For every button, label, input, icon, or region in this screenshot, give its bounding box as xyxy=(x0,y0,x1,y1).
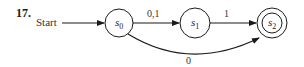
transition-s0-s2 xyxy=(128,34,259,54)
state-s2-accepting: s2 xyxy=(257,8,287,38)
start-label: Start xyxy=(36,16,57,28)
state-diagram: 17. Start s0 0,1 s1 1 s2 0 xyxy=(0,0,304,67)
transition-s0-s2-label: 0 xyxy=(186,55,191,66)
state-s2-label: s2 xyxy=(268,16,276,31)
state-s1: s1 xyxy=(180,8,210,38)
transition-s1-s2-label: 1 xyxy=(224,8,229,19)
state-s0-label: s0 xyxy=(115,16,123,31)
state-s1-label: s1 xyxy=(191,16,199,31)
transition-s0-s1-label: 0,1 xyxy=(147,8,160,19)
problem-number: 17. xyxy=(16,6,31,20)
state-s0: s0 xyxy=(105,9,133,37)
